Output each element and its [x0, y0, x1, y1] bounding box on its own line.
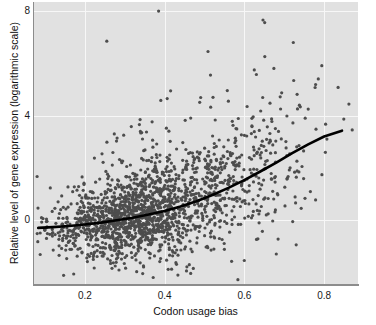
y-axis-title: Relative level of gene expression (logar… [8, 8, 20, 278]
scatter-plot-figure: 840 0.20.40.60.8 Relative level of gene … [0, 0, 376, 325]
x-axis-tick-labels: 0.20.40.60.8 [0, 290, 376, 304]
x-tick-label-1: 0.4 [145, 290, 185, 301]
x-tick-label-3: 0.8 [304, 290, 344, 301]
panel-bottom-border [33, 284, 359, 286]
x-tick-label-2: 0.6 [224, 290, 264, 301]
panel-left-border [33, 2, 34, 285]
trend-line-layer [33, 2, 358, 284]
x-tick-label-0: 0.2 [65, 290, 105, 301]
x-axis-title: Codon usage bias [33, 305, 358, 317]
plot-panel [33, 2, 358, 284]
